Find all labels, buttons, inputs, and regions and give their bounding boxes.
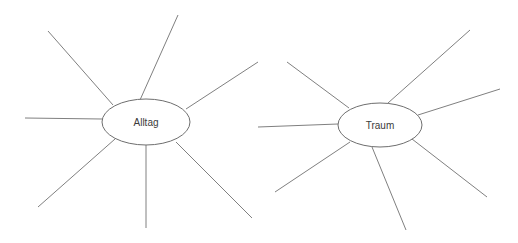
alltag-spoke-up-right[interactable]	[186, 62, 258, 109]
cluster-traum: Traum	[258, 30, 500, 230]
cluster-alltag: Alltag	[25, 15, 258, 228]
alltag-spoke-down-right[interactable]	[176, 142, 252, 218]
alltag-spoke-up-steep[interactable]	[140, 15, 178, 100]
diagram-canvas: Alltag Traum	[0, 0, 518, 243]
alltag-spoke-left[interactable]	[25, 118, 102, 119]
traum-spoke-up-right-steep[interactable]	[388, 30, 470, 103]
traum-node-label: Traum	[366, 120, 395, 131]
traum-spoke-up-left-far[interactable]	[287, 62, 349, 108]
traum-spoke-down-left[interactable]	[275, 142, 350, 192]
mind-map-diagram: Alltag Traum	[0, 0, 518, 243]
traum-spoke-down[interactable]	[372, 147, 406, 230]
traum-spoke-left[interactable]	[258, 124, 338, 127]
traum-spoke-down-right[interactable]	[412, 139, 487, 197]
alltag-node-label: Alltag	[133, 117, 158, 128]
alltag-spoke-up-left-far[interactable]	[48, 31, 113, 105]
alltag-spoke-down-left[interactable]	[38, 139, 115, 207]
traum-spoke-up-right[interactable]	[418, 89, 500, 115]
